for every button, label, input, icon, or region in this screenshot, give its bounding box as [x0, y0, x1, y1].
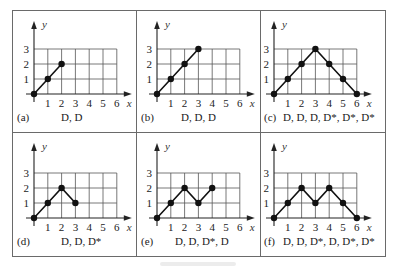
x-axis-arrow-icon [364, 91, 372, 97]
x-tick-label: 5 [340, 97, 346, 109]
path-point [271, 215, 277, 221]
x-axis-arrow-icon [247, 91, 255, 97]
x-axis-label: x [126, 221, 132, 233]
path-point [72, 200, 78, 206]
y-tick-label: 2 [264, 182, 270, 194]
y-tick-label: 3 [147, 43, 153, 55]
x-axis-arrow-icon [124, 215, 132, 221]
y-tick-label: 1 [147, 197, 153, 209]
y-tick-label: 1 [264, 73, 270, 85]
x-tick-label: 4 [326, 97, 332, 109]
x-tick-label: 3 [196, 97, 202, 109]
path-point [340, 200, 346, 206]
y-axis-label: y [41, 18, 47, 30]
x-tick-label: 3 [313, 97, 319, 109]
panel-label: (c) [264, 111, 276, 123]
y-tick-label: 2 [147, 182, 153, 194]
x-tick-label: 6 [114, 221, 120, 233]
panel-label: (b) [141, 111, 154, 123]
y-tick-label: 3 [147, 167, 153, 179]
path-point [195, 46, 201, 52]
figure-grid: yx123456123(a)D, D yx123456123(b)D, D, D… [12, 10, 386, 257]
panel-e: yx123456123(e)D, D, D*, D [137, 133, 261, 257]
x-tick-label: 5 [223, 97, 229, 109]
x-tick-label: 4 [86, 97, 92, 109]
panel-a: yx123456123(a)D, D [13, 11, 137, 133]
y-tick-label: 1 [24, 197, 30, 209]
y-tick-label: 1 [24, 73, 30, 85]
path-point [154, 91, 160, 97]
x-axis-label: x [249, 221, 255, 233]
grid [157, 173, 240, 218]
path-point [326, 185, 332, 191]
path-point [326, 61, 332, 67]
path-point [298, 61, 304, 67]
x-tick-label: 1 [168, 97, 174, 109]
axes [26, 24, 129, 102]
path-point [285, 200, 291, 206]
y-tick-label: 1 [147, 73, 153, 85]
grid [157, 49, 240, 94]
step-sequence: D, D [61, 111, 82, 123]
y-tick-label: 2 [24, 58, 30, 70]
path-point [271, 91, 277, 97]
y-tick-label: 3 [264, 43, 270, 55]
y-axis-label: y [164, 18, 170, 30]
path-point [45, 76, 51, 82]
x-tick-label: 4 [326, 221, 332, 233]
x-tick-label: 5 [223, 221, 229, 233]
y-tick-label: 2 [264, 58, 270, 70]
x-tick-label: 2 [59, 97, 65, 109]
y-axis-label: y [164, 140, 170, 152]
step-sequence: D, D, D, D*, D*, D* [283, 111, 375, 123]
y-tick-label: 1 [264, 197, 270, 209]
y-tick-label: 2 [24, 182, 30, 194]
x-tick-label: 6 [237, 221, 243, 233]
x-axis-arrow-icon [247, 215, 255, 221]
path-point [154, 215, 160, 221]
x-axis-label: x [366, 97, 372, 109]
y-tick-label: 3 [24, 167, 30, 179]
x-tick-label: 6 [354, 97, 360, 109]
y-axis-label: y [281, 140, 287, 152]
path-point [181, 185, 187, 191]
y-axis-arrow-icon [31, 21, 37, 29]
x-tick-label: 4 [209, 221, 215, 233]
lattice-path [157, 49, 198, 94]
path-point [168, 200, 174, 206]
y-axis-arrow-icon [154, 143, 160, 151]
axes [149, 24, 252, 102]
x-axis-label: x [249, 97, 255, 109]
x-tick-label: 3 [313, 221, 319, 233]
panel-label: (e) [141, 235, 153, 247]
x-tick-label: 1 [285, 97, 291, 109]
y-axis-arrow-icon [154, 21, 160, 29]
x-tick-label: 1 [168, 221, 174, 233]
step-sequence: D, D, D*, D, D*, D* [283, 235, 375, 247]
path-point [45, 200, 51, 206]
path-point [195, 200, 201, 206]
x-tick-label: 1 [45, 221, 51, 233]
panel-label: (a) [17, 111, 29, 123]
grid [34, 173, 117, 218]
path-point [209, 185, 215, 191]
x-tick-label: 6 [114, 97, 120, 109]
grid [34, 49, 117, 94]
x-axis-label: x [126, 97, 132, 109]
path-point [312, 200, 318, 206]
step-sequence: D, D, D*, D [175, 235, 229, 247]
panel-label: (f) [264, 235, 275, 247]
step-sequence: D, D, D [181, 111, 216, 123]
panel-f: yx123456123(f)D, D, D*, D, D*, D* [261, 133, 385, 257]
y-axis-label: y [41, 140, 47, 152]
path-point [58, 61, 64, 67]
y-tick-label: 2 [147, 58, 153, 70]
x-tick-label: 4 [86, 221, 92, 233]
path-point [168, 76, 174, 82]
x-tick-label: 5 [100, 97, 106, 109]
x-tick-label: 5 [100, 221, 106, 233]
path-point [181, 61, 187, 67]
x-tick-label: 2 [182, 221, 188, 233]
step-sequence: D, D, D* [61, 235, 101, 247]
x-axis-arrow-icon [364, 215, 372, 221]
